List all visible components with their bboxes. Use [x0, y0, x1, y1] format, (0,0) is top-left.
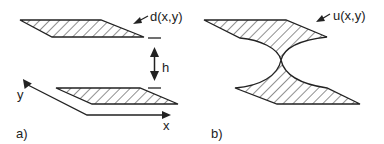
u-field-label: u(x,y) — [333, 9, 366, 22]
y-axis-label: y — [17, 88, 24, 101]
lower-plate-a — [56, 88, 178, 104]
upper-plate-a — [20, 20, 144, 37]
d-field-label: d(x,y) — [150, 10, 183, 23]
diagram-svg — [0, 0, 384, 144]
d-pointer-arrow-icon — [133, 16, 148, 24]
hourglass-surface-b — [204, 20, 360, 104]
panel-a-label: a) — [16, 127, 28, 140]
diagram-canvas: d(x,y) h y x a) u(x,y) b) — [0, 0, 384, 144]
h-double-arrow-icon — [150, 47, 159, 81]
u-pointer-arrow-icon — [316, 14, 330, 22]
x-axis-label: x — [163, 119, 170, 132]
h-gap-label: h — [162, 61, 169, 74]
panel-b-label: b) — [211, 127, 223, 140]
